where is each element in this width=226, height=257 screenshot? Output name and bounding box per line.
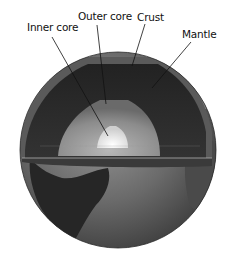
label-crust: Crust — [137, 11, 164, 23]
label-inner-core: Inner core — [27, 21, 78, 33]
earth-layers-diagram: Inner core Outer core Crust Mantle — [0, 0, 226, 257]
label-outer-core: Outer core — [78, 10, 132, 22]
label-mantle: Mantle — [182, 28, 216, 40]
globe-surface — [20, 52, 218, 250]
